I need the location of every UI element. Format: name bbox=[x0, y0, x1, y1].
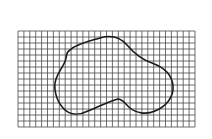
square-grid bbox=[18, 31, 195, 127]
irregular-shape-outline bbox=[55, 37, 173, 114]
grid-diagram bbox=[0, 0, 212, 139]
